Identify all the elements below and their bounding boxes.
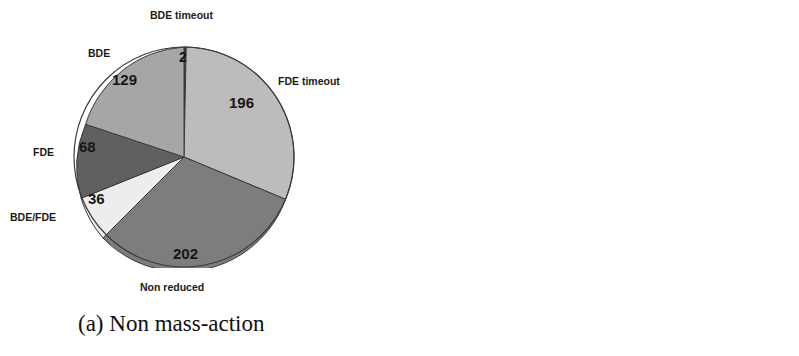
category-label-bde-fde: BDE/FDE bbox=[10, 212, 56, 223]
value-label-bde-timeout: 2 bbox=[179, 50, 187, 64]
category-label-fde-timeout: FDE timeout bbox=[278, 76, 340, 87]
figure-caption-a: (a) Non mass-action bbox=[78, 312, 265, 335]
value-label-bde-fde: 36 bbox=[88, 191, 105, 206]
figure-mass-action: 10 12 11 5 5 BE BE/FE/SMB FE/SMB BE/FE F… bbox=[400, 0, 799, 356]
category-label-non-reduced: Non reduced bbox=[140, 282, 204, 293]
pie-a-svg bbox=[73, 46, 295, 268]
value-label-fde-timeout: 196 bbox=[229, 95, 254, 110]
value-label-non-reduced: 202 bbox=[173, 246, 198, 261]
pie-chart-non-mass-action bbox=[73, 46, 295, 268]
figure-page: 2 129 68 36 202 196 BDE timeout BDE FDE … bbox=[0, 0, 799, 356]
value-label-fde: 68 bbox=[79, 139, 96, 154]
category-label-fde: FDE bbox=[33, 147, 54, 158]
category-label-bde: BDE bbox=[88, 48, 110, 59]
category-label-bde-timeout: BDE timeout bbox=[150, 10, 213, 21]
value-label-bde: 129 bbox=[112, 72, 137, 87]
figure-non-mass-action: 2 129 68 36 202 196 BDE timeout BDE FDE … bbox=[0, 0, 400, 356]
